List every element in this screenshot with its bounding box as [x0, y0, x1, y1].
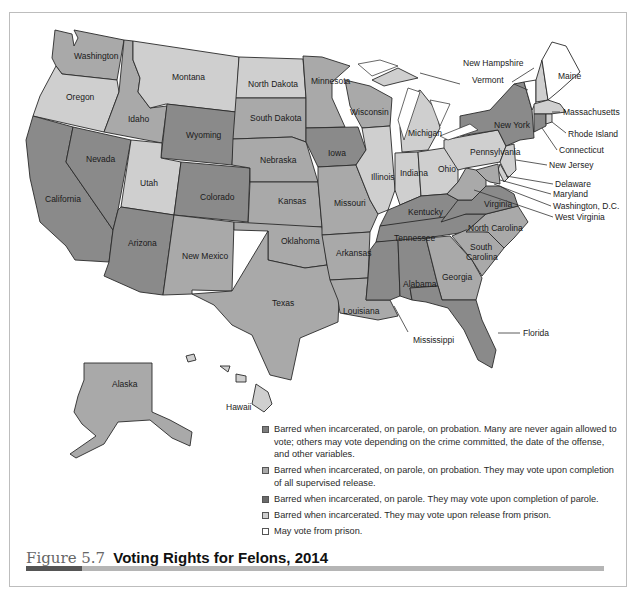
label-colorado: Colorado — [200, 192, 235, 202]
state-rhode-island[interactable] — [546, 114, 552, 124]
state-connecticut[interactable] — [534, 114, 546, 132]
label-west-virginia: West Virginia — [555, 212, 605, 222]
label-north-carolina: North Carolina — [468, 223, 523, 233]
label-alabama: Alabama — [403, 279, 437, 289]
label-tennessee: Tennessee — [394, 233, 435, 243]
figure-number: Figure 5.7 — [26, 549, 105, 567]
label-montana: Montana — [172, 72, 205, 82]
figure-caption: Figure 5.7 Voting Rights for Felons, 201… — [26, 549, 328, 567]
legend-swatch-icon — [262, 467, 269, 474]
label-maryland: Maryland — [553, 189, 588, 199]
label-north-dakota: North Dakota — [248, 79, 298, 89]
label-arkansas: Arkansas — [336, 248, 371, 258]
legend-item: Barred when incarcerated. They may vote … — [262, 509, 622, 522]
label-wisconsin: Wisconsin — [350, 107, 389, 117]
state-wisconsin[interactable] — [345, 80, 392, 128]
legend-label: Barred when incarcerated, on parole, on … — [274, 424, 617, 459]
label-michigan: Michigan — [408, 128, 442, 138]
caption-rule-accent — [26, 566, 82, 571]
label-oklahoma: Oklahoma — [281, 236, 320, 246]
label-washington: Washington — [74, 51, 119, 61]
state-minnesota[interactable] — [303, 56, 350, 128]
label-new-york: New York — [494, 120, 531, 130]
label-hawaii: Hawaii — [226, 402, 252, 412]
label-pennsylvania: Pennsylvania — [470, 147, 521, 157]
label-delaware: Delaware — [555, 179, 591, 189]
legend-swatch-icon — [262, 496, 269, 503]
label-kansas: Kansas — [278, 196, 306, 206]
label-indiana: Indiana — [400, 168, 428, 178]
label-california: California — [45, 194, 81, 204]
label-louisiana: Louisiana — [343, 306, 380, 316]
label-mississippi: Mississippi — [413, 335, 454, 345]
state-north-dakota[interactable] — [236, 57, 306, 98]
label-south-carolina-2: Carolina — [466, 252, 498, 262]
label-idaho: Idaho — [128, 114, 150, 124]
label-connecticut: Connecticut — [559, 145, 605, 155]
legend-item: Barred when incarcerated, on parole, on … — [262, 464, 622, 489]
label-dc: Washington, D.C. — [553, 201, 619, 211]
label-new-jersey: New Jersey — [549, 160, 594, 170]
label-massachusetts: Massachusetts — [563, 107, 620, 117]
legend-item: Barred when incarcerated, on parole. The… — [262, 493, 622, 506]
legend-item: Barred when incarcerated, on parole, on … — [262, 423, 622, 461]
label-new-mexico: New Mexico — [182, 251, 229, 261]
label-georgia: Georgia — [442, 272, 473, 282]
legend-item: May vote from prison. — [262, 525, 622, 538]
label-minnesota: Minnesota — [311, 76, 350, 86]
label-iowa: Iowa — [328, 148, 346, 158]
label-florida: Florida — [523, 328, 549, 338]
state-alaska[interactable] — [70, 363, 192, 458]
label-maine: Maine — [558, 71, 581, 81]
map-legend: Barred when incarcerated, on parole, on … — [262, 423, 622, 541]
label-ohio: Ohio — [438, 164, 456, 174]
label-vermont: Vermont — [472, 75, 504, 85]
label-rhode-island: Rhode Island — [568, 129, 618, 139]
label-kentucky: Kentucky — [408, 207, 444, 217]
label-arizona: Arizona — [128, 238, 157, 248]
figure-title: Voting Rights for Felons, 2014 — [113, 549, 328, 566]
label-south-carolina-1: South — [470, 242, 492, 252]
label-new-hampshire: New Hampshire — [463, 58, 524, 68]
label-south-dakota: South Dakota — [250, 113, 302, 123]
state-indiana[interactable] — [395, 152, 421, 205]
label-utah: Utah — [140, 178, 158, 188]
label-nebraska: Nebraska — [260, 155, 297, 165]
label-illinois: Illinois — [371, 172, 395, 182]
label-nevada: Nevada — [86, 154, 116, 164]
legend-label: Barred when incarcerated, on parole, on … — [274, 465, 614, 488]
label-alaska: Alaska — [112, 379, 138, 389]
legend-label: Barred when incarcerated. They may vote … — [274, 510, 551, 520]
caption-rule — [26, 566, 604, 571]
label-virginia: Virginia — [484, 199, 512, 209]
state-massachusetts[interactable] — [534, 100, 566, 114]
legend-swatch-icon — [262, 528, 269, 535]
label-oregon: Oregon — [66, 92, 95, 102]
legend-label: Barred when incarcerated, on parole. The… — [274, 494, 599, 504]
legend-swatch-icon — [262, 426, 269, 433]
label-wyoming: Wyoming — [186, 130, 222, 140]
label-missouri: Missouri — [334, 198, 366, 208]
label-texas: Texas — [272, 298, 294, 308]
state-iowa[interactable] — [306, 127, 366, 167]
legend-label: May vote from prison. — [274, 526, 362, 536]
legend-swatch-icon — [262, 512, 269, 519]
